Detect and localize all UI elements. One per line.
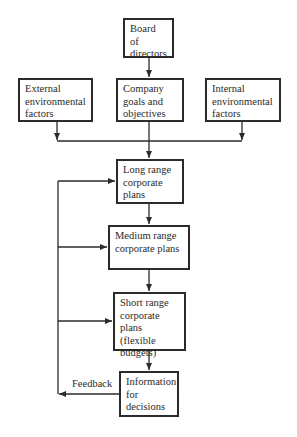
node-long-range-plans: Long range corporate plans: [116, 159, 184, 204]
node-internal-factors: Internal environmental factors: [205, 78, 281, 122]
node-information-for-decisions: Information for decisions: [119, 371, 179, 417]
node-company-goals: Company goals and objectives: [116, 78, 184, 122]
node-label: Information for decisions: [126, 376, 176, 412]
feedback-label: Feedback: [72, 378, 112, 389]
node-label: Board of directors: [130, 23, 167, 59]
node-label: Internal environmental factors: [212, 83, 273, 119]
node-board-of-directors: Board of directors: [123, 18, 174, 58]
node-label: Long range corporate plans: [123, 164, 171, 200]
node-label: Medium range corporate plans: [115, 230, 179, 254]
node-label: Company goals and objectives: [123, 83, 166, 119]
node-external-factors: External environmental factors: [18, 78, 93, 122]
node-short-range-plans: Short range corporate plans (flexible bu…: [113, 292, 186, 351]
node-medium-range-plans: Medium range corporate plans: [108, 225, 190, 270]
node-label: External environmental factors: [25, 83, 86, 119]
node-label: Short range corporate plans (flexible bu…: [120, 297, 169, 358]
